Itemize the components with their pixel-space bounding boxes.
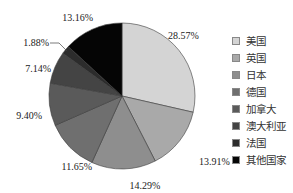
legend-swatch — [232, 105, 240, 113]
slice-label: 13.16% — [62, 12, 93, 23]
slice-label: 1.88% — [23, 37, 49, 48]
slice-label: 9.40% — [16, 110, 42, 121]
legend-item: 澳大利亚 — [232, 117, 286, 134]
legend-swatch — [232, 54, 240, 62]
legend-label: 加拿大 — [246, 101, 276, 116]
legend-label: 英国 — [246, 50, 266, 65]
slice-label: 7.14% — [25, 63, 51, 74]
legend-label: 其他国家 — [246, 152, 286, 167]
legend-item: 日本 — [232, 66, 286, 83]
legend-label: 德国 — [246, 84, 266, 99]
legend-item: 其他国家 — [232, 151, 286, 168]
slice-label: 11.65% — [62, 161, 92, 172]
legend-swatch — [232, 122, 240, 130]
legend-swatch — [232, 139, 240, 147]
pie-slices — [49, 23, 195, 169]
legend-label: 澳大利亚 — [246, 118, 286, 133]
legend-label: 法国 — [246, 135, 266, 150]
slice-label: 28.57% — [168, 30, 199, 41]
leader-line — [50, 43, 67, 51]
legend-swatch — [232, 88, 240, 96]
legend-label: 美国 — [246, 33, 266, 48]
legend-item: 英国 — [232, 49, 286, 66]
legend-item: 法国 — [232, 134, 286, 151]
legend-item: 美国 — [232, 32, 286, 49]
legend: 美国 英国 日本 德国 加拿大 澳大利亚 法国 其他国家 — [232, 32, 286, 168]
legend-item: 德国 — [232, 83, 286, 100]
slice-label: 13.91% — [199, 156, 230, 167]
legend-swatch — [232, 71, 240, 79]
slice-label: 14.29% — [130, 180, 161, 191]
legend-swatch — [232, 156, 240, 164]
legend-swatch — [232, 37, 240, 45]
legend-item: 加拿大 — [232, 100, 286, 117]
legend-label: 日本 — [246, 67, 266, 82]
